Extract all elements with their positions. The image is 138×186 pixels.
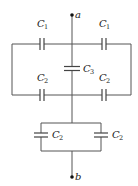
terminal-a-dot xyxy=(70,13,74,17)
label-c2-bottomleft: C 2 xyxy=(52,129,63,142)
label-subscript: 2 xyxy=(44,77,48,85)
label-subscript: 1 xyxy=(106,23,110,31)
label-c2-midright: C 2 xyxy=(99,72,110,85)
label-c1-right: C 1 xyxy=(99,18,110,31)
label-c1-left: C 1 xyxy=(37,18,48,31)
terminal-b-label: b xyxy=(75,171,81,182)
label-subscript: 2 xyxy=(106,77,110,85)
terminal-b-dot xyxy=(70,175,74,179)
terminal-a-label: a xyxy=(75,9,81,20)
label-subscript: 3 xyxy=(90,68,94,76)
label-subscript: 2 xyxy=(59,134,63,142)
circuit-diagram: a b C 1 C 1 C 3 C 2 C 2 C 2 C 2 xyxy=(0,0,138,186)
label-c2-midleft: C 2 xyxy=(37,72,48,85)
label-c3: C 3 xyxy=(83,63,94,76)
label-subscript: 2 xyxy=(119,134,123,142)
label-subscript: 1 xyxy=(44,23,48,31)
label-c2-bottomright: C 2 xyxy=(112,129,123,142)
